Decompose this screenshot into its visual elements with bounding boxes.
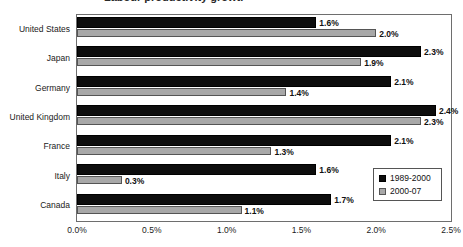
bar-series2 [77,117,421,125]
bar-group: 2.4%2.3% [77,103,451,133]
x-axis-tick-label: 2.0% [367,226,386,235]
category-label: Italy [54,172,70,181]
legend-entry-2000-07: 2000-07 [379,186,421,197]
bar-series1 [77,17,316,28]
bar-series2 [77,147,271,155]
legend: 1989-2000 2000-07 [373,168,442,201]
legend-label: 2000-07 [390,187,421,196]
bar-series2 [77,29,376,37]
bar-series2 [77,206,242,214]
bar-value-label: 1.6% [319,166,338,175]
bar-value-label: 2.0% [379,30,398,39]
x-axis-tick-label: 1.0% [217,226,236,235]
bar-value-label: 2.1% [394,78,413,87]
bar-value-label: 1.6% [319,19,338,28]
bar-chart: Labour productivity growth United States… [0,0,463,247]
bar-value-label: 1.3% [274,148,293,157]
bar-series1 [77,194,331,205]
x-axis-tick-label: 2.5% [441,226,460,235]
bar-value-label: 1.9% [364,59,383,68]
bar-series1 [77,76,391,87]
bar-series2 [77,58,361,66]
category-label: Japan [47,54,70,63]
bar-series2 [77,176,122,184]
bar-series1 [77,135,391,146]
bar-value-label: 2.1% [394,137,413,146]
chart-title-fragment: Labour productivity growth [104,0,244,3]
bar-series1 [77,105,436,116]
bar-value-label: 1.7% [334,196,353,205]
bar-group: 2.1%1.3% [77,133,451,163]
legend-swatch-icon [379,175,386,182]
bar-series1 [77,46,421,57]
legend-entry-1989-2000: 1989-2000 [379,173,431,184]
bar-series2 [77,88,286,96]
bar-value-label: 2.3% [424,118,443,127]
bar-group: 1.6%2.0% [77,15,451,45]
bar-value-label: 2.3% [424,48,443,57]
bar-group: 2.1%1.4% [77,74,451,104]
category-axis: United StatesJapanGermanyUnited KingdomF… [0,14,74,222]
category-label: Germany [35,84,70,93]
legend-label: 1989-2000 [390,174,431,183]
bar-value-label: 0.3% [125,177,144,186]
category-label: United States [19,25,70,34]
x-axis-ticks: 0.0%0.5%1.0%1.5%2.0%2.5% [0,226,463,240]
category-label: Canada [40,201,70,210]
bar-group: 2.3%1.9% [77,44,451,74]
x-axis-tick-label: 0.0% [67,226,86,235]
legend-swatch-icon [379,188,386,195]
category-label: United Kingdom [10,113,70,122]
bar-value-label: 1.1% [245,207,264,216]
category-label: France [44,142,70,151]
bar-value-label: 1.4% [289,89,308,98]
x-axis-tick-label: 0.5% [142,226,161,235]
x-axis-tick-label: 1.5% [292,226,311,235]
bar-value-label: 2.4% [439,107,458,116]
bar-series1 [77,164,316,175]
